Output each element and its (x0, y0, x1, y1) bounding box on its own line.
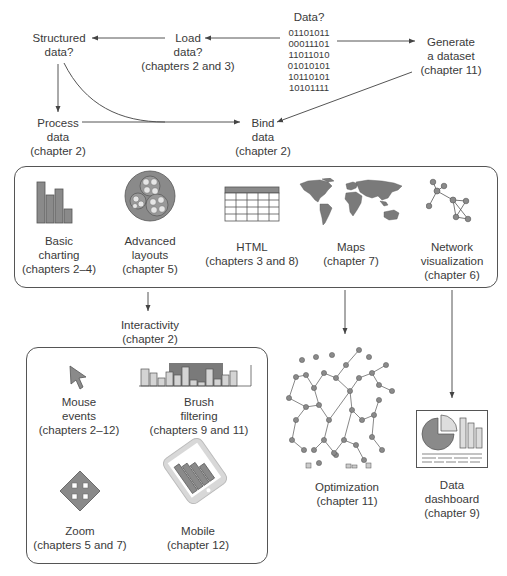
data-dashboard-label: Data dashboard (chapter 9) (412, 478, 492, 520)
large-network-graph-icon (284, 345, 404, 470)
brush-filter-icon (139, 361, 253, 387)
maps-label: Maps (chapter 7) (315, 240, 387, 268)
structured-data-node: Structured data? (20, 31, 98, 59)
mobile-label: Mobile (chapter 12) (160, 524, 236, 552)
table-icon (224, 186, 280, 222)
process-data-node: Process data (chapter 2) (25, 116, 91, 158)
basic-charting-label: Basic charting (chapters 2–4) (14, 234, 104, 276)
bar-chart-icon (36, 180, 80, 225)
mouse-events-label: Mouse events (chapters 2–12) (34, 395, 124, 437)
advanced-layouts-label: Advanced layouts (chapter 5) (105, 234, 195, 276)
optimization-label: Optimization (chapter 11) (305, 480, 389, 508)
brush-filtering-label: Brush filtering (chapters 9 and 11) (144, 395, 254, 437)
binary-data: 01101011 00011101 11011010 01010101 1011… (283, 27, 335, 93)
network-graph-icon (426, 178, 476, 230)
data-question-label: Data? (283, 10, 335, 24)
circle-packing-icon (124, 170, 176, 222)
mouse-cursor-icon (68, 365, 88, 391)
mobile-tablet-icon (160, 436, 230, 506)
interactivity-label: Interactivity (chapter 2) (110, 318, 190, 346)
world-map-icon (298, 178, 406, 228)
pan-zoom-icon (59, 470, 101, 512)
load-data-node: Load data? (chapters 2 and 3) (138, 31, 238, 73)
html-label: HTML (chapters 3 and 8) (200, 240, 304, 268)
zoom-label: Zoom (chapters 5 and 7) (30, 524, 130, 552)
generate-dataset-node: Generate a dataset (chapter 11) (415, 35, 487, 77)
bind-data-node: Bind data (chapter 2) (230, 116, 296, 158)
network-visualization-label: Network visualization (chapter 6) (410, 240, 494, 282)
dashboard-icon (416, 410, 488, 468)
